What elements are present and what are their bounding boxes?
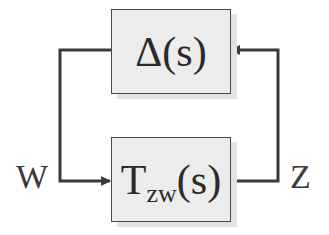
w-signal-line [60, 50, 111, 181]
z-signal-label: Z [290, 158, 311, 196]
z-signal-line [229, 50, 278, 181]
tzw-main-label: T [121, 156, 147, 204]
delta-block-label: Δ(s) [135, 28, 206, 76]
w-signal-label: W [16, 158, 48, 196]
delta-block: Δ(s) [111, 9, 231, 94]
tzw-subscript: zw [147, 179, 177, 209]
tzw-block: Tzw(s) [111, 137, 231, 222]
tzw-tail-label: (s) [177, 156, 221, 204]
